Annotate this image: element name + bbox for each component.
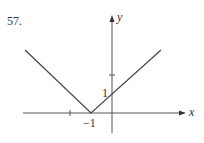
y-tick-label: 1 [102, 86, 108, 101]
y-axis-label: y [117, 10, 122, 25]
x-tick-label: −1 [83, 116, 96, 131]
x-axis-label: x [189, 105, 194, 120]
y-axis-arrow-icon [110, 15, 115, 22]
function-curve [25, 50, 161, 113]
graph [0, 0, 204, 143]
x-axis-arrow-icon [179, 111, 186, 116]
